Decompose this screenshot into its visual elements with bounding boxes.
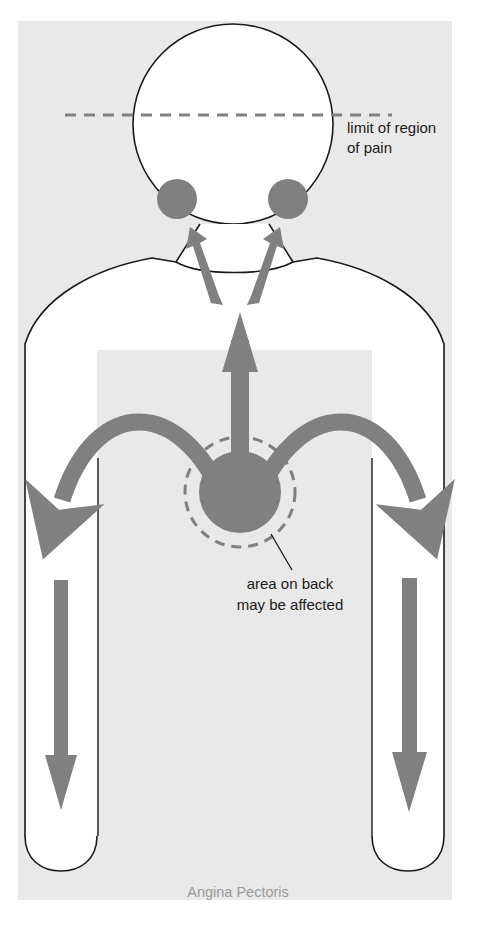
right-jaw-pain-circle — [268, 179, 308, 219]
back-area-label-line1: area on back — [247, 575, 334, 592]
angina-pectoris-diagram: limit of region of pain area on back may… — [0, 0, 477, 928]
left-jaw-pain-circle — [157, 179, 197, 219]
limit-of-pain-label-line1: limit of region — [347, 119, 436, 136]
figure-caption: Angina Pectoris — [187, 884, 289, 900]
limit-of-pain-label-line2: of pain — [347, 139, 392, 156]
back-area-label-line2: may be affected — [237, 596, 343, 613]
figure-root: limit of region of pain area on back may… — [0, 0, 477, 928]
